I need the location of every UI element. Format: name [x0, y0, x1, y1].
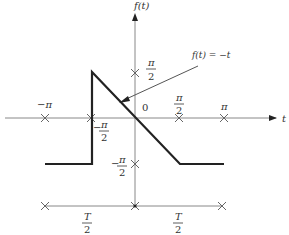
x-label-half-pi: π 2	[174, 92, 184, 116]
x-label-neg-half-pi: − π 2	[93, 119, 109, 143]
x-label-half-pi-den: 2	[176, 105, 182, 116]
y-label-half-pi: π 2	[146, 57, 156, 82]
y-label-half-pi-den: 2	[148, 71, 154, 82]
y-label-neg-half-pi-den: 2	[119, 167, 125, 178]
y-axis-label: f(t)	[133, 0, 150, 11]
y-label-neg-half-pi-num: π	[118, 154, 126, 165]
period-left-den: 2	[84, 224, 90, 235]
function-diagram: t f(t) f(t) = −t −π − π 2 0 π 2 π	[0, 0, 289, 235]
period-right-num: T	[175, 211, 183, 222]
x-label-neg-half-pi-den: 2	[101, 132, 107, 143]
x-axis-label: t	[282, 113, 287, 124]
x-axis: t	[5, 113, 287, 124]
y-label-half-pi-num: π	[147, 57, 155, 68]
annotation-label: f(t) = −t	[191, 50, 231, 60]
x-label-neg-pi: −π	[37, 99, 52, 110]
annotation-arrowhead-icon	[119, 96, 130, 103]
period-right-den: 2	[175, 224, 181, 235]
x-label-half-pi-num: π	[175, 92, 183, 103]
x-label-pi: π	[220, 101, 228, 112]
y-label-neg-half-pi: − π 2	[111, 154, 127, 178]
x-label-origin: 0	[142, 102, 148, 113]
period-bracket	[41, 202, 226, 210]
period-label-left: T 2	[82, 211, 92, 235]
x-axis-arrow-icon	[269, 115, 277, 121]
x-label-neg-half-pi-num: π	[100, 119, 108, 130]
period-left-num: T	[84, 211, 92, 222]
period-label-right: T 2	[173, 211, 183, 235]
annotation-arrow	[119, 66, 198, 103]
y-axis-arrow-icon	[132, 13, 138, 21]
